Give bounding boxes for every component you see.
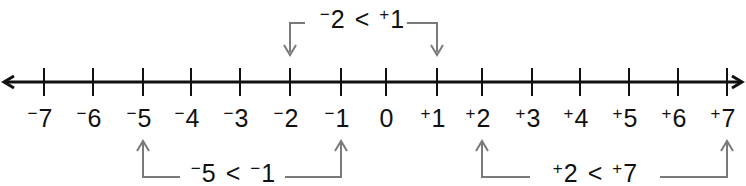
number: 4 (575, 104, 589, 132)
tick-label: −5 (127, 103, 152, 133)
tick-label: +2 (466, 103, 491, 133)
sign: − (191, 159, 201, 178)
left-number: 5 (202, 159, 216, 186)
tick-label: +7 (711, 103, 736, 133)
tick-label: +4 (564, 103, 589, 133)
tick-label: −1 (325, 103, 350, 133)
left-number: 2 (331, 5, 345, 33)
number: 3 (527, 104, 541, 132)
tick-label: −2 (274, 103, 299, 133)
tick-label: −4 (175, 103, 200, 133)
tick-label: −6 (77, 103, 102, 133)
sign: + (379, 5, 389, 24)
tick-label: −7 (28, 103, 53, 133)
number: 7 (722, 104, 736, 132)
sign: + (613, 104, 623, 123)
tick-label: 0 (379, 103, 394, 133)
sign: − (127, 104, 137, 123)
left-number: 2 (564, 159, 578, 186)
tick-label: +1 (421, 103, 446, 133)
number: 4 (186, 104, 200, 132)
number: 3 (235, 104, 249, 132)
number: 5 (138, 104, 152, 132)
sign: + (612, 159, 622, 178)
tick-label: +3 (516, 103, 541, 133)
comparison-top: −2<+1 (317, 4, 407, 38)
number: 6 (673, 104, 687, 132)
sign: + (466, 104, 476, 123)
less-than-operator: < (588, 159, 603, 186)
number: 2 (285, 104, 299, 132)
less-than-operator: < (226, 159, 241, 186)
number: 1 (432, 104, 446, 132)
sign: − (28, 104, 38, 123)
number: 2 (477, 104, 491, 132)
number: 0 (380, 104, 394, 132)
right-number: 1 (390, 5, 404, 33)
number: 5 (624, 104, 638, 132)
sign: + (564, 104, 574, 123)
sign: − (274, 104, 284, 123)
less-than-operator: < (355, 5, 370, 33)
sign: − (320, 5, 330, 24)
sign: − (175, 104, 185, 123)
right-number: 1 (261, 159, 275, 186)
sign: + (662, 104, 672, 123)
number: 7 (39, 104, 53, 132)
tick-label: +6 (662, 103, 687, 133)
sign: + (711, 104, 721, 123)
comparison-bottom-left: −5<−1 (188, 158, 278, 186)
sign: − (250, 159, 260, 178)
comparison-bottom-right: +2<+7 (550, 158, 640, 186)
sign: − (77, 104, 87, 123)
sign: + (553, 159, 563, 178)
sign: − (224, 104, 234, 123)
number: 1 (336, 104, 350, 132)
tick-label: +5 (613, 103, 638, 133)
number-line-diagram: −7−6−5−4−3−2−10+1+2+3+4+5+6+7 −2<+1 −5<−… (0, 0, 746, 186)
sign: + (516, 104, 526, 123)
sign: − (325, 104, 335, 123)
right-number: 7 (623, 159, 637, 186)
number: 6 (88, 104, 102, 132)
tick-label: −3 (224, 103, 249, 133)
sign: + (421, 104, 431, 123)
